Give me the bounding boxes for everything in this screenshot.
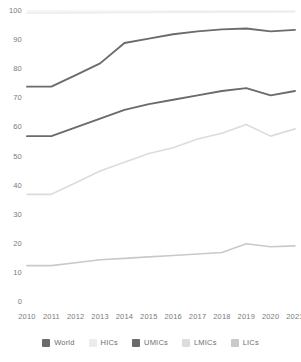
y-axis-tick-50: 50 bbox=[2, 153, 22, 161]
series-line-lmics bbox=[27, 124, 295, 194]
x-axis-tick-2018: 2018 bbox=[210, 313, 234, 321]
legend-label: LICs bbox=[243, 339, 259, 347]
y-axis-tick-100: 100 bbox=[2, 7, 22, 15]
x-axis-tick-2012: 2012 bbox=[64, 313, 88, 321]
x-axis-tick-2021: 2021 bbox=[283, 313, 301, 321]
series-line-umics bbox=[27, 28, 295, 86]
x-axis-tick-2015: 2015 bbox=[137, 313, 161, 321]
y-axis-tick-0: 0 bbox=[2, 298, 22, 306]
x-axis-tick-2020: 2020 bbox=[259, 313, 283, 321]
legend-item-hics[interactable]: HICs bbox=[89, 339, 118, 347]
x-axis-tick-2017: 2017 bbox=[186, 313, 210, 321]
legend-swatch-icon-hics bbox=[89, 339, 97, 347]
chart-legend: WorldHICsUMICsLMICsLICs bbox=[0, 333, 301, 353]
legend-label: LMICs bbox=[194, 339, 217, 347]
x-axis-tick-2019: 2019 bbox=[234, 313, 258, 321]
legend-label: UMICs bbox=[144, 339, 168, 347]
y-axis-tick-60: 60 bbox=[2, 123, 22, 131]
legend-swatch-icon-umics bbox=[132, 339, 140, 347]
x-axis-tick-2010: 2010 bbox=[15, 313, 39, 321]
legend-item-world[interactable]: World bbox=[42, 339, 74, 347]
legend-label: HICs bbox=[101, 339, 118, 347]
x-axis-tick-2013: 2013 bbox=[88, 313, 112, 321]
y-axis-tick-80: 80 bbox=[2, 65, 22, 73]
y-axis-tick-90: 90 bbox=[2, 36, 22, 44]
line-chart: 0102030405060708090100 20102011201220132… bbox=[0, 0, 301, 362]
legend-swatch-icon-world bbox=[42, 339, 50, 347]
x-axis-tick-2016: 2016 bbox=[161, 313, 185, 321]
y-axis-tick-30: 30 bbox=[2, 211, 22, 219]
series-line-lics bbox=[27, 244, 295, 266]
legend-swatch-icon-lics bbox=[231, 339, 239, 347]
legend-item-lmics[interactable]: LMICs bbox=[182, 339, 217, 347]
y-axis-tick-40: 40 bbox=[2, 182, 22, 190]
series-lines-group bbox=[27, 12, 295, 266]
chart-plot-area bbox=[0, 0, 301, 362]
x-axis-tick-2014: 2014 bbox=[112, 313, 136, 321]
y-axis-tick-70: 70 bbox=[2, 94, 22, 102]
legend-item-lics[interactable]: LICs bbox=[231, 339, 259, 347]
y-axis-tick-10: 10 bbox=[2, 269, 22, 277]
y-axis-tick-20: 20 bbox=[2, 240, 22, 248]
legend-item-umics[interactable]: UMICs bbox=[132, 339, 168, 347]
series-line-hics bbox=[27, 12, 295, 13]
legend-swatch-icon-lmics bbox=[182, 339, 190, 347]
legend-label: World bbox=[54, 339, 74, 347]
x-axis-tick-2011: 2011 bbox=[39, 313, 63, 321]
